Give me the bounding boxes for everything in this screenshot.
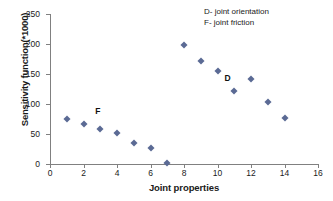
data-point xyxy=(80,121,87,128)
x-tick-label: 8 xyxy=(182,168,187,178)
point-annotation-d: D xyxy=(224,73,230,83)
y-tick-label: 0 xyxy=(35,159,40,169)
data-point xyxy=(214,67,221,74)
y-tick-label: 50 xyxy=(31,129,40,139)
y-tick: 150 xyxy=(46,74,50,75)
scatter-chart: Sensitivity function(*1000) Joint proper… xyxy=(0,0,333,201)
x-tick-label: 12 xyxy=(246,168,255,178)
data-point xyxy=(63,115,70,122)
y-tick-label: 200 xyxy=(26,39,40,49)
y-tick: 50 xyxy=(46,134,50,135)
x-tick-label: 6 xyxy=(148,168,153,178)
x-tick-label: 16 xyxy=(313,168,322,178)
x-tick-label: 14 xyxy=(280,168,289,178)
data-point xyxy=(231,88,238,95)
x-tick-label: 2 xyxy=(81,168,86,178)
data-point xyxy=(147,144,154,151)
point-annotation-f: F xyxy=(95,106,100,116)
data-point xyxy=(197,58,204,65)
y-tick: 250 xyxy=(46,14,50,15)
data-point xyxy=(164,160,171,167)
x-tick-label: 4 xyxy=(115,168,120,178)
x-axis-title: Joint properties xyxy=(50,182,318,193)
x-tick-label: 0 xyxy=(48,168,53,178)
plot-area: 050100150200250 0246810121416 FD xyxy=(50,14,318,164)
y-tick-label: 250 xyxy=(26,9,40,19)
x-tick-label: 10 xyxy=(213,168,222,178)
data-point xyxy=(264,99,271,106)
y-tick-label: 100 xyxy=(26,99,40,109)
data-point xyxy=(281,114,288,121)
data-point xyxy=(180,42,187,49)
data-point xyxy=(97,125,104,132)
data-point xyxy=(113,130,120,137)
y-tick: 200 xyxy=(46,44,50,45)
y-axis-line xyxy=(50,14,51,165)
data-point xyxy=(130,139,137,146)
data-point xyxy=(247,75,254,82)
y-tick-label: 150 xyxy=(26,69,40,79)
y-tick: 100 xyxy=(46,104,50,105)
